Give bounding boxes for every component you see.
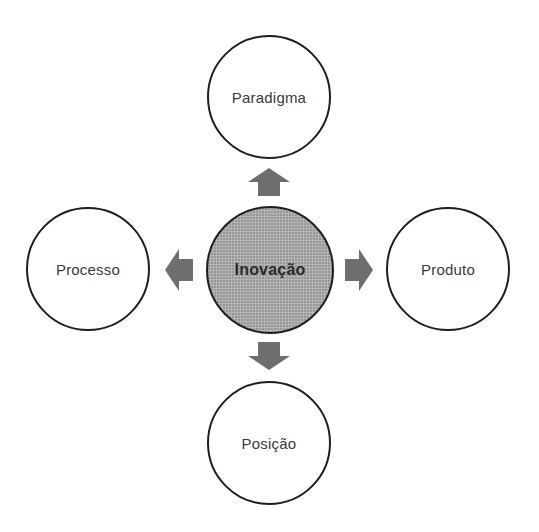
node-posicao: Posição bbox=[207, 381, 331, 505]
node-label: Processo bbox=[56, 261, 120, 278]
node-label: Posição bbox=[242, 435, 297, 452]
node-processo: Processo bbox=[26, 207, 150, 331]
node-inovacao-center: Inovação bbox=[206, 206, 334, 334]
node-label: Paradigma bbox=[232, 89, 306, 106]
arrow-up-icon bbox=[248, 168, 290, 196]
node-label: Inovação bbox=[235, 261, 306, 279]
cropped-caption-fragment bbox=[0, 0, 539, 5]
arrow-right-icon bbox=[345, 249, 373, 291]
node-label: Produto bbox=[421, 261, 475, 278]
arrow-down-icon bbox=[248, 342, 290, 370]
arrow-left-icon bbox=[165, 249, 193, 291]
node-produto: Produto bbox=[386, 207, 510, 331]
node-paradigma: Paradigma bbox=[207, 35, 331, 159]
